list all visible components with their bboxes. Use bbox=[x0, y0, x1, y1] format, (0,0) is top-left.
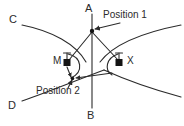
diagram-vector-layer bbox=[0, 0, 184, 126]
apex-point-position-1 bbox=[90, 29, 94, 33]
axis-label-b: B bbox=[87, 110, 94, 121]
diagram-canvas: A B C D M X Position 1 Position 2 bbox=[0, 0, 184, 126]
callout-label-position-2: Position 2 bbox=[36, 86, 80, 96]
node-label-x: X bbox=[127, 56, 134, 66]
callout-label-position-1: Position 1 bbox=[103, 10, 147, 20]
callout-arrow-position-1 bbox=[95, 23, 120, 29]
axis-label-a: A bbox=[85, 3, 92, 14]
curve-label-c: C bbox=[9, 14, 17, 25]
curve-lower-right bbox=[104, 70, 181, 97]
node-marker-x bbox=[116, 59, 123, 66]
node-marker-m bbox=[64, 59, 71, 66]
ray-m-to-position-2 bbox=[67, 67, 71, 77]
curve-label-d: D bbox=[8, 100, 16, 111]
lower-point-position-2 bbox=[71, 77, 75, 81]
node-label-m: M bbox=[53, 56, 61, 66]
